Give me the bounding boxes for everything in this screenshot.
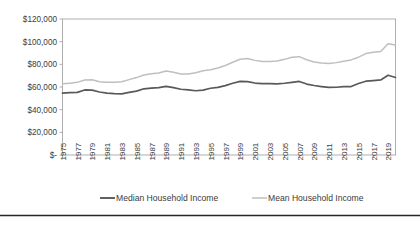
x-axis-tick-label: 1993	[192, 142, 201, 160]
chart-container: $-$20,000$40,000$60,000$80,000$100,000$1…	[0, 0, 420, 226]
y-axis-tick-label: $100,000	[23, 38, 58, 47]
x-axis-tick-label: 1983	[118, 142, 127, 160]
x-axis-tick-label: 1981	[103, 142, 112, 160]
x-axis-tick-label: 1975	[59, 142, 68, 160]
y-axis-tick-label: $80,000	[27, 60, 57, 69]
x-axis-tick-label: 2017	[370, 142, 379, 160]
y-axis-tick-label: $-	[50, 151, 58, 160]
x-axis-tick-label: 2007	[296, 142, 305, 160]
y-axis-tick-label: $120,000	[23, 15, 58, 24]
y-axis-labels: $-$20,000$40,000$60,000$80,000$100,000$1…	[23, 15, 63, 160]
x-axis-tick-label: 1987	[148, 142, 157, 160]
legend-label: Mean Household Income	[268, 193, 364, 203]
y-axis-tick-label: $60,000	[27, 83, 57, 92]
x-axis-tick-label: 2013	[340, 142, 349, 160]
x-axis-tick-label: 2001	[251, 142, 260, 160]
x-axis-tick-label: 2015	[355, 142, 364, 160]
y-axis-tick-label: $40,000	[27, 106, 57, 115]
chart-legend: Median Household IncomeMean Household In…	[100, 193, 364, 203]
y-axis-tick-label: $20,000	[27, 128, 57, 137]
x-axis-tick-label: 1997	[222, 142, 231, 160]
x-axis-tick-label: 1989	[162, 142, 171, 160]
x-axis-tick-label: 2019	[384, 142, 393, 160]
x-axis-tick-label: 1977	[74, 142, 83, 160]
x-axis-tick-label: 2005	[281, 142, 290, 160]
legend-label: Median Household Income	[116, 193, 218, 203]
x-axis-tick-label: 1999	[236, 142, 245, 160]
x-axis-tick-label: 1985	[133, 142, 142, 160]
x-axis-tick-label: 2011	[325, 143, 334, 161]
x-axis-tick-label: 2009	[310, 142, 319, 160]
series-line-mean	[63, 44, 396, 84]
income-line-chart: $-$20,000$40,000$60,000$80,000$100,000$1…	[0, 0, 420, 226]
x-axis-tick-label: 1979	[88, 142, 97, 160]
x-axis-tick-label: 2003	[266, 142, 275, 160]
series-line-median	[63, 75, 396, 94]
x-axis-labels: 1975197719791981198319851987198919911993…	[59, 142, 394, 160]
data-series	[63, 44, 396, 94]
x-axis-tick-label: 1995	[207, 142, 216, 160]
x-axis-tick-label: 1991	[177, 142, 186, 160]
